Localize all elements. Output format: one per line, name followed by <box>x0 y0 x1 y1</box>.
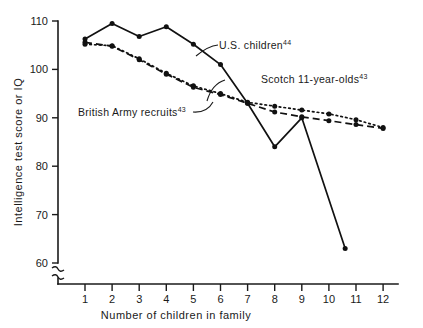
series-u-s-children <box>83 21 348 251</box>
data-point <box>299 108 304 113</box>
x-axis-title: Number of children in family <box>101 309 251 321</box>
data-point <box>137 34 142 39</box>
data-point <box>164 71 169 76</box>
label-british-army: British Army recruits43 <box>78 106 186 118</box>
x-tick-label: 10 <box>323 293 335 305</box>
y-axis: 60708090100110 <box>30 15 64 284</box>
y-tick-label: 60 <box>36 257 48 269</box>
data-point <box>191 83 196 88</box>
data-point <box>354 117 359 122</box>
data-point <box>272 104 277 109</box>
annotation-british-army: British Army recruits43 <box>78 102 213 118</box>
data-point <box>83 42 88 47</box>
data-point <box>381 125 386 130</box>
data-point <box>218 62 223 67</box>
data-point <box>272 144 277 149</box>
data-point <box>137 56 142 61</box>
x-tick-label: 8 <box>272 293 278 305</box>
series-group <box>83 21 386 251</box>
x-tick-label: 6 <box>217 293 223 305</box>
data-point <box>299 114 304 119</box>
y-tick-label: 80 <box>36 160 48 172</box>
y-tick-label: 110 <box>30 15 48 27</box>
x-tick-label: 12 <box>377 293 389 305</box>
y-axis-title: Intelligence test score or IQ <box>12 78 24 226</box>
data-point <box>326 111 331 116</box>
data-point <box>164 24 169 29</box>
line-chart-svg: 60708090100110 123456789101112 U.S. chil… <box>0 0 423 328</box>
y-tick-group: 60708090100110 <box>30 15 58 269</box>
x-tick-label: 11 <box>350 293 361 305</box>
series-line <box>85 23 345 248</box>
axis-break-upper-icon <box>52 267 64 272</box>
data-point <box>343 246 348 251</box>
label-scotch: Scotch 11-year-olds43 <box>261 73 368 85</box>
x-tick-label: 4 <box>163 293 169 305</box>
x-tick-label: 7 <box>245 293 251 305</box>
x-tick-label: 1 <box>82 293 88 305</box>
data-point <box>191 42 196 47</box>
x-tick-label: 5 <box>190 293 196 305</box>
y-tick-label: 70 <box>36 209 48 221</box>
x-tick-label: 2 <box>109 293 115 305</box>
annotation-scotch: Scotch 11-year-olds43 <box>207 73 368 101</box>
data-point <box>245 100 250 105</box>
annotation-us-children: U.S. children44 <box>196 39 291 56</box>
data-point <box>326 118 331 123</box>
y-tick-label: 90 <box>36 112 48 124</box>
x-tick-label: 9 <box>299 293 305 305</box>
x-tick-label: 3 <box>136 293 142 305</box>
leader-line-british-army <box>193 102 213 112</box>
data-point <box>354 122 359 127</box>
label-us-children: U.S. children44 <box>219 39 291 51</box>
chart-figure: 60708090100110 123456789101112 U.S. chil… <box>0 0 423 328</box>
data-point <box>110 43 115 48</box>
x-tick-group: 123456789101112 <box>82 284 389 305</box>
data-point <box>110 21 115 26</box>
x-axis: 123456789101112 <box>58 284 398 305</box>
y-tick-label: 100 <box>30 63 48 75</box>
data-point <box>272 109 277 114</box>
data-point <box>218 91 223 96</box>
